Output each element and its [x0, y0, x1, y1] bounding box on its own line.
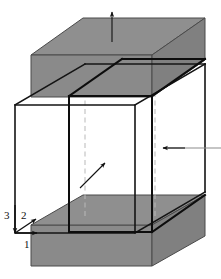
top-platen: [31, 18, 205, 97]
axis-label-1: 1: [24, 238, 30, 250]
center-load-arrow: [80, 163, 105, 188]
axis-label-2: 2: [21, 209, 27, 221]
figure-canvas: 3 2 1: [0, 0, 221, 279]
bottom-platen: [31, 195, 205, 266]
axis-label-3: 3: [4, 209, 10, 221]
cube-compression-diagram: 3 2 1: [0, 0, 221, 279]
